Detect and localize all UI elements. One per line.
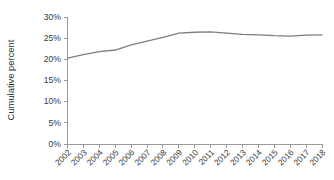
x-tick-label: 2002: [53, 147, 73, 167]
x-tick-label: 2014: [244, 147, 264, 167]
y-tick-label: 10%: [44, 96, 62, 106]
x-tick-label: 2016: [275, 147, 295, 167]
x-tick-label: 2018: [307, 147, 327, 167]
x-tick-label: 2017: [291, 147, 311, 167]
x-tick-label: 2010: [180, 147, 200, 167]
x-tick-label: 2007: [132, 147, 152, 167]
y-tick-label: 5%: [49, 118, 62, 128]
x-axis-group: 2002200320042005200620072008200920102011…: [53, 144, 328, 167]
y-axis-group: 0%5%10%15%20%25%30%: [44, 12, 68, 149]
y-tick-label: 0%: [49, 139, 62, 149]
x-tick-label: 2006: [116, 147, 136, 167]
x-tick-labels: 2002200320042005200620072008200920102011…: [53, 147, 328, 167]
y-tick-label: 30%: [44, 12, 62, 22]
x-tick-label: 2015: [260, 147, 280, 167]
x-tick-label: 2004: [85, 147, 105, 167]
line-chart: 0%5%10%15%20%25%30% 20022003200420052006…: [0, 0, 334, 180]
y-tick-label: 20%: [44, 54, 62, 64]
y-axis-title: Cumulative percent: [5, 39, 16, 120]
x-tick-label: 2009: [164, 147, 184, 167]
y-tick-label: 15%: [44, 75, 62, 85]
data-series-line: [68, 32, 323, 58]
chart-canvas: 0%5%10%15%20%25%30% 20022003200420052006…: [0, 0, 334, 180]
x-tick-label: 2008: [148, 147, 168, 167]
x-tick-label: 2012: [212, 147, 232, 167]
y-tick-labels: 0%5%10%15%20%25%30%: [44, 12, 62, 149]
x-tick-label: 2013: [228, 147, 248, 167]
y-tick-label: 25%: [44, 33, 62, 43]
x-tick-label: 2011: [196, 147, 216, 167]
x-tick-label: 2005: [101, 147, 121, 167]
x-tick-label: 2003: [69, 147, 89, 167]
